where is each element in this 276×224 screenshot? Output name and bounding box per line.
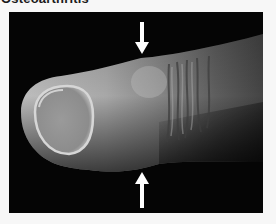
arrow-down-icon [135, 22, 149, 54]
clinical-photo [9, 12, 263, 213]
finger [21, 34, 263, 172]
page-title: Osteoarthritis [1, 0, 89, 6]
arrow-up-icon [135, 172, 149, 208]
